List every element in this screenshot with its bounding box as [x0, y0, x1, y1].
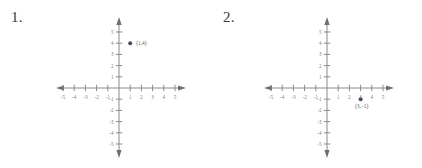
x-axis-tick-label: -5 [61, 94, 66, 100]
y-axis-tick-label: 2 [111, 63, 114, 69]
x-axis-tick-label: 1 [337, 94, 340, 100]
y-axis-arrow-up [324, 17, 329, 25]
plotted-point-label: (3,−1) [355, 103, 369, 110]
y-axis-tick-label: -1 [109, 96, 114, 102]
y-axis-tick-label: -5 [317, 141, 322, 147]
x-axis-tick-label: 5 [174, 94, 177, 100]
coordinate-plane-svg-1: -5-4-3-2-11234554321-1-2-3-4-5(1,4) [0, 0, 211, 168]
x-axis-tick-label: 2 [140, 94, 143, 100]
x-axis-arrow-right [386, 85, 394, 90]
plotted-point [128, 41, 132, 45]
worksheet: 1. -5-4-3-2-11234554321-1-2-3-4-5(1,4) 2… [0, 0, 422, 168]
y-axis-tick-label: 4 [319, 40, 322, 46]
x-axis-tick-label: -3 [83, 94, 88, 100]
coordinate-plane-1: -5-4-3-2-11234554321-1-2-3-4-5(1,4) [0, 0, 211, 168]
x-axis-tick-label: -5 [269, 94, 274, 100]
y-axis-arrow-down [116, 150, 121, 158]
y-axis-tick-label: -2 [317, 107, 322, 113]
y-axis-tick-label: 1 [111, 74, 114, 80]
y-axis-tick-label: 3 [111, 51, 114, 57]
x-axis-tick-label: 5 [382, 94, 385, 100]
y-axis-tick-label: -3 [317, 119, 322, 125]
x-axis-tick-label: 3 [151, 94, 154, 100]
x-axis-tick-label: 4 [371, 94, 374, 100]
x-axis-tick-label: 4 [163, 94, 166, 100]
y-axis-tick-label: 4 [111, 40, 114, 46]
y-axis-tick-label: -2 [109, 107, 114, 113]
x-axis-tick-label: -3 [291, 94, 296, 100]
coordinate-plane-svg-2: -5-4-3-2-11234554321-1-2-3-4-5(3,−1) [211, 0, 422, 168]
coordinate-plane-2: -5-4-3-2-11234554321-1-2-3-4-5(3,−1) [211, 0, 422, 168]
problem-1: 1. -5-4-3-2-11234554321-1-2-3-4-5(1,4) [0, 0, 211, 168]
plotted-point-label: (1,4) [136, 40, 147, 47]
x-axis-arrow-right [178, 85, 186, 90]
problem-2: 2. -5-4-3-2-11234554321-1-2-3-4-5(3,−1) [211, 0, 422, 168]
x-axis-tick-label: 1 [129, 94, 132, 100]
y-axis-tick-label: -4 [109, 130, 114, 136]
plotted-point [359, 97, 363, 101]
y-axis-tick-label: -1 [317, 96, 322, 102]
y-axis-tick-label: 1 [319, 74, 322, 80]
y-axis-arrow-down [324, 150, 329, 158]
y-axis-tick-label: -5 [109, 141, 114, 147]
x-axis-tick-label: -2 [302, 94, 307, 100]
x-axis-tick-label: -4 [280, 94, 285, 100]
y-axis-tick-label: 3 [319, 51, 322, 57]
y-axis-arrow-up [116, 17, 121, 25]
y-axis-tick-label: 2 [319, 63, 322, 69]
x-axis-tick-label: -4 [72, 94, 77, 100]
x-axis-tick-label: 2 [348, 94, 351, 100]
x-axis-tick-label: -2 [94, 94, 99, 100]
y-axis-tick-label: -4 [317, 130, 322, 136]
y-axis-tick-label: -3 [109, 119, 114, 125]
y-axis-tick-label: 5 [111, 29, 114, 35]
y-axis-tick-label: 5 [319, 29, 322, 35]
